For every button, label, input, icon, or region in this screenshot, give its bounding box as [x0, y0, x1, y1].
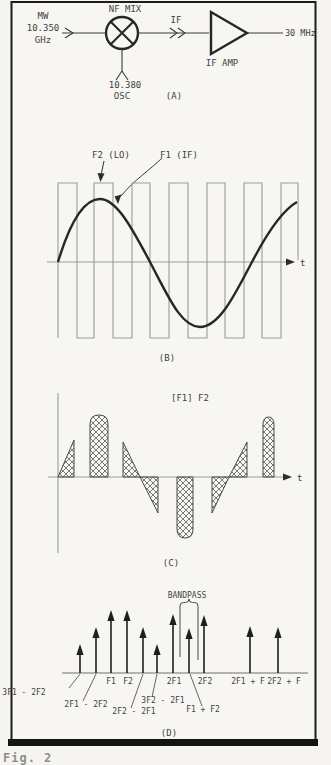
spectrum-label: 2F2 - 2F1 [112, 707, 156, 716]
mixer-label: NF MIX [109, 4, 142, 14]
panel-c-title: [F1] F2 [171, 393, 209, 403]
output-label: 30 MHz [285, 28, 316, 38]
lobe-narrow-positive [263, 417, 274, 477]
spectrum-label: 2F1 - 2F2 [64, 700, 108, 709]
if-label: IF [171, 15, 182, 25]
lobe-tall-negative [177, 477, 193, 538]
panel-a-label: (A) [166, 91, 182, 101]
lobe-tall-positive [90, 415, 108, 477]
panel-c-label: (C) [163, 558, 179, 568]
cropped-caption: Fig. 2 [3, 751, 52, 765]
osc-label-line1: 10.380 [109, 80, 142, 90]
mw-label-line3: GHz [35, 35, 51, 45]
spectrum-label: 3F1 - 2F2 [2, 688, 46, 697]
if-annotation-label: F1 (IF) [160, 150, 198, 160]
amp-label: IF AMP [206, 58, 239, 68]
mw-label-line1: MW [38, 11, 49, 21]
figure-border [8, 2, 318, 746]
mw-label-line2: 10.350 [27, 23, 60, 33]
spectrum-label: 3F2 - 2F1 [141, 696, 185, 705]
spectrum-label: 2F2 + F [267, 677, 301, 686]
panel-b-axis-label: t [300, 258, 305, 268]
spectrum-label: 2F1 [167, 677, 182, 686]
osc-label-line2: OSC [114, 91, 130, 101]
bandpass-label: BANDPASS [168, 591, 207, 600]
panel-d-label: (D) [161, 728, 177, 738]
panel-b-label: (B) [159, 353, 175, 363]
lo-annotation-label: F2 (LO) [92, 150, 130, 160]
spectrum-label: F1 [106, 677, 116, 686]
panel-c-axis-label: t [297, 473, 302, 483]
spectrum-label: 2F2 [198, 677, 213, 686]
spectrum-label: 2F1 + F [231, 677, 265, 686]
spectrum-label: F2 [123, 677, 133, 686]
thick-bottom-rule [8, 739, 318, 746]
spectrum-label: F1 + F2 [186, 705, 220, 714]
